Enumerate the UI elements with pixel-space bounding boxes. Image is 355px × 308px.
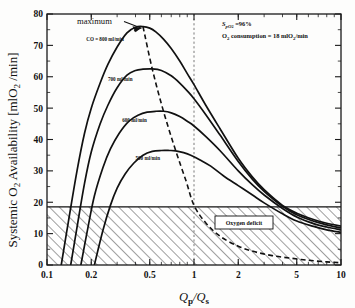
x-tick-label: 10: [336, 270, 346, 280]
oxygen-deficit-box: Oxygen deficit: [215, 216, 273, 229]
y-tick-label: 60: [34, 72, 44, 82]
maximum-annotation-label: maximum: [77, 16, 112, 26]
curve-label-700: 700 ml/min: [108, 76, 133, 82]
y-tick-label: 30: [34, 166, 44, 176]
x-tick-label: 0.2: [85, 270, 97, 280]
y-tick-labels: 0 10 20 30 40 50 60 70 80: [34, 9, 44, 270]
chart-svg: 0.1 0.2 0.5 1 2 5 10 0 10 20 30 40 50 60…: [0, 0, 355, 308]
y-tick-label: 0: [38, 260, 43, 270]
y-tick-label: 50: [34, 104, 44, 114]
y-axis-title: Systemic O2 Availability [mlO2 /min]: [5, 52, 22, 247]
x-tick-label: 5: [294, 270, 299, 280]
oxygen-deficit-label: Oxygen deficit: [226, 220, 263, 226]
x-tick-label: 1: [192, 270, 197, 280]
chart-figure: 0.1 0.2 0.5 1 2 5 10 0 10 20 30 40 50 60…: [0, 0, 355, 308]
x-tick-label: 0.1: [41, 270, 53, 280]
y-tick-label: 10: [34, 229, 44, 239]
curve-label-600: 600 ml/min: [122, 117, 147, 123]
y-tick-label: 80: [34, 9, 44, 19]
curve-label-500: 500 ml/min: [136, 155, 161, 161]
y-tick-label: 70: [34, 41, 44, 51]
y-tick-label: 40: [34, 135, 44, 145]
x-tick-label: 0.5: [144, 270, 156, 280]
x-axis-title: Qp/Qs: [179, 290, 210, 306]
curve-label-co800: CO = 800 ml/min: [86, 36, 124, 42]
x-tick-label: 2: [236, 270, 241, 280]
y-tick-label: 20: [34, 198, 44, 208]
